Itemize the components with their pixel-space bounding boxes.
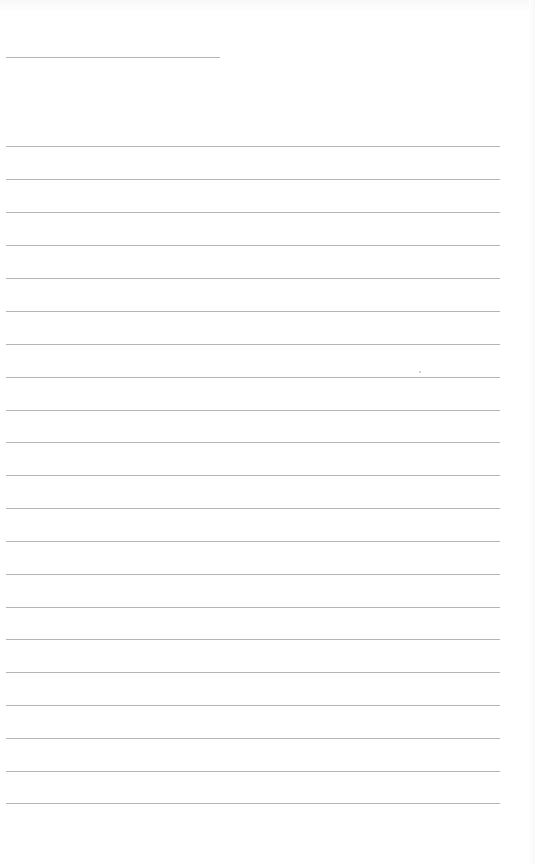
ruled-line <box>6 377 500 378</box>
ruled-line <box>6 442 500 443</box>
ruled-line <box>6 574 500 575</box>
ruled-line <box>6 803 500 804</box>
ruled-line <box>6 607 500 608</box>
ruled-line <box>6 738 500 739</box>
paper-speck <box>419 371 421 373</box>
ruled-line <box>6 771 500 772</box>
page-edge <box>529 0 535 864</box>
ruled-line <box>6 541 500 542</box>
ruled-line <box>6 672 500 673</box>
ruled-line <box>6 311 500 312</box>
ruled-line <box>6 344 500 345</box>
top-bleed-through <box>0 0 535 12</box>
header-line <box>6 57 220 58</box>
ruled-line <box>6 245 500 246</box>
ruled-line <box>6 146 500 147</box>
ruled-line <box>6 508 500 509</box>
ruled-line <box>6 639 500 640</box>
ruled-line <box>6 410 500 411</box>
ruled-line <box>6 212 500 213</box>
ruled-line <box>6 705 500 706</box>
ruled-line <box>6 278 500 279</box>
ruled-line <box>6 475 500 476</box>
ruled-line <box>6 179 500 180</box>
